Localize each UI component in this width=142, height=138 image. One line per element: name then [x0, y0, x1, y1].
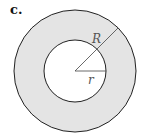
annulus-diagram: R r — [0, 0, 142, 138]
outer-radius-label: R — [91, 32, 101, 46]
